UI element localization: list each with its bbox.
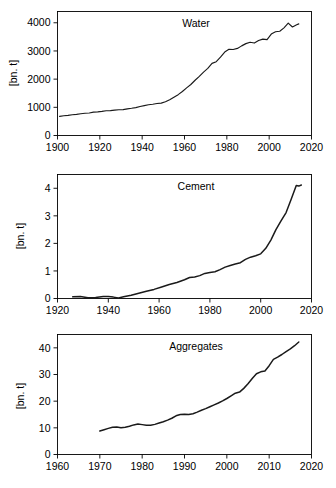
aggregates-y-ticklabel: 0 bbox=[45, 448, 51, 460]
aggregates-y-ticklabel: 30 bbox=[39, 368, 51, 380]
aggregates-data-line bbox=[100, 342, 299, 431]
water-x-ticklabel: 1920 bbox=[88, 141, 112, 153]
water-y-ticklabels: 01000200030004000 bbox=[27, 16, 51, 141]
water-x-ticks bbox=[58, 136, 312, 140]
aggregates-x-ticklabel: 1980 bbox=[130, 460, 154, 472]
water-y-ticklabel: 0 bbox=[45, 129, 51, 141]
cement-y-ticklabel: 4 bbox=[45, 182, 51, 194]
water-y-ticklabel: 1000 bbox=[27, 101, 51, 113]
cement-y-ticklabel: 1 bbox=[45, 265, 51, 277]
multi-panel-figure: 1900192019401960198020002020 01000200030… bbox=[0, 0, 336, 488]
water-y-ticklabel: 4000 bbox=[27, 16, 51, 28]
water-x-ticklabel: 2000 bbox=[257, 141, 281, 153]
cement-y-ticks bbox=[54, 188, 58, 298]
aggregates-x-ticklabel: 1960 bbox=[46, 460, 70, 472]
aggregates-y-axis-label: [bn. t] bbox=[14, 383, 26, 409]
water-y-axis-label: [bn. t] bbox=[7, 60, 19, 86]
panel-cement: 192019401960198020002020 01234 Cement [b… bbox=[0, 163, 336, 326]
cement-data-line bbox=[73, 185, 302, 298]
water-chart-svg: 1900192019401960198020002020 01000200030… bbox=[0, 0, 336, 163]
water-data-line bbox=[60, 23, 299, 116]
aggregates-chart-svg: 1960197019801990200020102020 010203040 A… bbox=[0, 326, 336, 488]
cement-x-ticklabels: 192019401960198020002020 bbox=[46, 304, 324, 316]
aggregates-y-ticklabels: 010203040 bbox=[39, 342, 51, 461]
water-y-ticklabel: 3000 bbox=[27, 45, 51, 57]
aggregates-plot-frame bbox=[58, 335, 312, 455]
cement-y-ticklabels: 01234 bbox=[45, 182, 51, 304]
water-x-ticklabel: 1940 bbox=[130, 141, 154, 153]
cement-chart-svg: 192019401960198020002020 01234 Cement [b… bbox=[0, 163, 336, 326]
panel-aggregates: 1960197019801990200020102020 010203040 A… bbox=[0, 326, 336, 488]
aggregates-y-ticklabel: 20 bbox=[39, 395, 51, 407]
aggregates-y-ticklabel: 40 bbox=[39, 342, 51, 354]
water-x-ticklabel: 2020 bbox=[300, 141, 324, 153]
water-x-ticklabel: 1980 bbox=[215, 141, 239, 153]
water-y-ticklabel: 2000 bbox=[27, 73, 51, 85]
aggregates-x-ticklabel: 2000 bbox=[215, 460, 239, 472]
aggregates-panel-title: Aggregates bbox=[169, 340, 223, 352]
aggregates-x-ticklabels: 1960197019801990200020102020 bbox=[46, 460, 324, 472]
aggregates-x-ticks bbox=[58, 455, 312, 459]
aggregates-x-ticklabel: 2010 bbox=[257, 460, 281, 472]
water-y-ticks bbox=[54, 23, 58, 136]
panel-water: 1900192019401960198020002020 01000200030… bbox=[0, 0, 336, 163]
water-plot-frame bbox=[58, 12, 312, 136]
cement-y-ticklabel: 3 bbox=[45, 210, 51, 222]
aggregates-y-ticklabel: 10 bbox=[39, 422, 51, 434]
cement-y-ticklabel: 2 bbox=[45, 237, 51, 249]
aggregates-y-ticks bbox=[54, 348, 58, 455]
water-x-ticklabel: 1960 bbox=[173, 141, 197, 153]
cement-x-ticks bbox=[58, 299, 312, 303]
cement-x-ticklabel: 2020 bbox=[300, 304, 324, 316]
aggregates-x-ticklabel: 1990 bbox=[173, 460, 197, 472]
aggregates-x-ticklabel: 1970 bbox=[88, 460, 112, 472]
cement-panel-title: Cement bbox=[178, 180, 215, 192]
cement-y-axis-label: [bn. t] bbox=[14, 223, 26, 249]
cement-x-ticklabel: 2000 bbox=[249, 304, 273, 316]
cement-x-ticklabel: 1980 bbox=[198, 304, 222, 316]
cement-x-ticklabel: 1940 bbox=[97, 304, 121, 316]
water-x-ticklabels: 1900192019401960198020002020 bbox=[46, 141, 324, 153]
aggregates-x-ticklabel: 2020 bbox=[300, 460, 324, 472]
cement-x-ticklabel: 1960 bbox=[147, 304, 171, 316]
cement-x-ticklabel: 1920 bbox=[46, 304, 70, 316]
water-panel-title: Water bbox=[182, 17, 210, 29]
cement-y-ticklabel: 0 bbox=[45, 292, 51, 304]
water-x-ticklabel: 1900 bbox=[46, 141, 70, 153]
